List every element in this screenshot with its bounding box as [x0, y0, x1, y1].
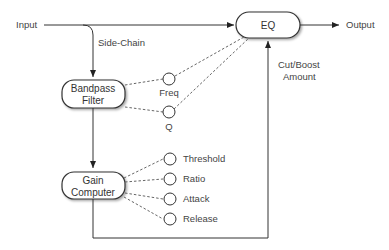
gain-label-line1: Gain — [82, 175, 103, 186]
freq-link — [125, 79, 163, 85]
ratio-knob-icon[interactable] — [164, 173, 176, 185]
output-label: Output — [346, 19, 375, 30]
attack-label: Attack — [183, 193, 210, 204]
q-label: Q — [165, 121, 172, 132]
threshold-link — [124, 159, 163, 178]
release-knob-icon[interactable] — [164, 213, 176, 225]
freq-label: Freq — [159, 87, 179, 98]
cut-boost-wire — [93, 41, 268, 238]
attack-knob-icon[interactable] — [164, 193, 176, 205]
gain-computer-block: Gain Computer — [62, 172, 125, 199]
q-to-eq-link — [174, 38, 249, 109]
ratio-link — [125, 179, 163, 182]
attack-link — [125, 193, 163, 199]
side-chain-wire — [83, 25, 93, 77]
q-link — [125, 107, 163, 112]
q-knob-icon[interactable] — [163, 106, 175, 118]
bandpass-label-line1: Bandpass — [71, 83, 115, 94]
gain-label-line2: Computer — [71, 187, 116, 198]
cut-boost-label-line1: Cut/Boost — [278, 59, 320, 70]
input-label: Input — [16, 19, 37, 30]
threshold-knob-icon[interactable] — [164, 153, 176, 165]
dynamic-eq-diagram: Input Side-Chain EQ Output Bandpass Filt… — [0, 0, 389, 250]
cut-boost-label-line2: Amount — [283, 71, 316, 82]
side-chain-label: Side-Chain — [98, 37, 145, 48]
bandpass-filter-block: Bandpass Filter — [62, 80, 125, 108]
eq-label: EQ — [261, 20, 276, 31]
eq-block: EQ — [236, 12, 300, 38]
freq-to-eq-link — [175, 37, 244, 76]
release-label: Release — [183, 213, 218, 224]
bandpass-label-line2: Filter — [82, 95, 105, 106]
freq-knob-icon[interactable] — [163, 73, 175, 85]
threshold-label: Threshold — [183, 153, 225, 164]
ratio-label: Ratio — [183, 173, 205, 184]
release-link — [124, 197, 163, 219]
